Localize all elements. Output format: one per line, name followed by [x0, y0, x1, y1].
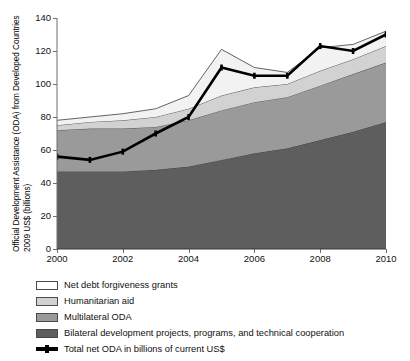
y-axis-title: Official Development Assistance (ODA) fr…: [0, 0, 34, 262]
total-oda-marker-2001: [89, 157, 92, 163]
total-oda-marker-2010: [385, 32, 386, 38]
legend-item-4[interactable]: Total net ODA in billions of current US$: [36, 341, 410, 357]
y-tick-label-120: 120: [23, 45, 51, 56]
chart-root: Official Development Assistance (ODA) fr…: [0, 0, 410, 361]
y-tick-label-60: 60: [23, 144, 51, 155]
legend-item-3[interactable]: Bilateral development projects, programs…: [36, 325, 410, 341]
y-tick-mark-120: [53, 51, 57, 52]
total-oda-marker-2007: [286, 73, 289, 79]
x-tick-label-2002: 2002: [103, 253, 143, 264]
chart-legend: Net debt forgiveness grantsHumanitarian …: [36, 277, 410, 357]
y-tick-label-100: 100: [23, 78, 51, 89]
total-oda-marker-2005: [220, 65, 223, 71]
swatch-white-icon: [36, 281, 58, 290]
y-axis-title-line1: Official Development Assistance (ODA) fr…: [11, 15, 22, 252]
swatch-medium-gray-icon: [36, 313, 58, 322]
legend-item-2[interactable]: Multilateral ODA: [36, 309, 410, 325]
y-tick-mark-40: [53, 183, 57, 184]
legend-label-3: Bilateral development projects, programs…: [64, 328, 344, 338]
y-tick-label-140: 140: [23, 12, 51, 23]
plot-area: [57, 18, 386, 249]
total-oda-marker-2004: [187, 114, 190, 120]
y-tick-mark-80: [53, 117, 57, 118]
y-tick-mark-100: [53, 84, 57, 85]
area-chart-svg: [57, 18, 386, 249]
x-tick-label-2004: 2004: [169, 253, 209, 264]
legend-label-2: Multilateral ODA: [64, 312, 132, 322]
y-tick-mark-140: [53, 18, 57, 19]
y-tick-mark-60: [53, 150, 57, 151]
legend-label-0: Net debt forgiveness grants: [64, 280, 178, 290]
y-tick-mark-20: [53, 216, 57, 217]
legend-item-0[interactable]: Net debt forgiveness grants: [36, 277, 410, 293]
legend-item-1[interactable]: Humanitarian aid: [36, 293, 410, 309]
y-tick-label-20: 20: [23, 210, 51, 221]
x-tick-label-2000: 2000: [37, 253, 77, 264]
total-oda-marker-2006: [253, 73, 256, 79]
legend-label-1: Humanitarian aid: [64, 296, 134, 306]
total-oda-marker-2008: [319, 43, 322, 49]
total-oda-marker-2000: [57, 154, 58, 160]
total-oda-marker-2002: [122, 149, 125, 155]
y-tick-label-40: 40: [23, 177, 51, 188]
swatch-dark-gray-icon: [36, 329, 58, 338]
x-tick-label-2008: 2008: [300, 253, 340, 264]
x-tick-label-2010: 2010: [366, 253, 406, 264]
swatch-light-gray-icon: [36, 297, 58, 306]
x-tick-label-2006: 2006: [234, 253, 274, 264]
total-oda-marker-2003: [154, 131, 157, 137]
swatch-black-line-icon: [36, 347, 58, 351]
legend-label-4: Total net ODA in billions of current US$: [64, 344, 225, 354]
total-oda-marker-2009: [352, 48, 355, 54]
y-tick-label-80: 80: [23, 111, 51, 122]
